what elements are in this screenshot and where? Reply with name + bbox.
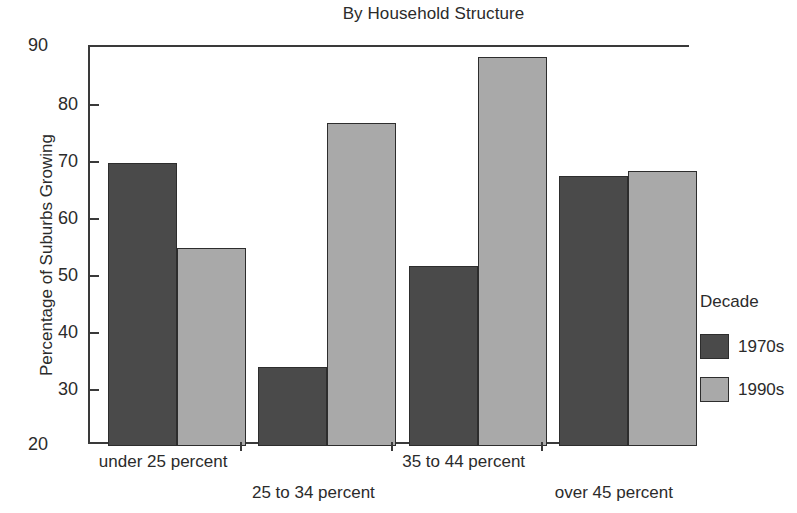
y-tick-label: 80 bbox=[58, 94, 78, 115]
bar-2-1990s bbox=[327, 123, 396, 446]
x-tick-3 bbox=[541, 442, 543, 451]
y-tick-label: 40 bbox=[58, 322, 78, 343]
y-tick-label: 70 bbox=[58, 151, 78, 172]
x-tick-1 bbox=[240, 442, 242, 451]
x-axis-label-2: 25 to 34 percent bbox=[252, 483, 375, 503]
x-tick-2 bbox=[391, 442, 393, 451]
bar-4-1990s bbox=[628, 171, 697, 446]
y-axis-title: Percentage of Suburbs Growing bbox=[37, 90, 57, 420]
y-tick-label: 30 bbox=[58, 379, 78, 400]
bar-3-1970s bbox=[409, 266, 478, 446]
y-tick-label: 90 bbox=[28, 35, 48, 56]
legend-items: 1970s1990s bbox=[700, 334, 795, 402]
plot-area: 2030405060708090 bbox=[88, 45, 689, 444]
bar-1-1970s bbox=[108, 163, 177, 446]
y-tick-label: 60 bbox=[58, 208, 78, 229]
legend-swatch-1990s bbox=[700, 377, 729, 402]
x-axis-label-1: under 25 percent bbox=[99, 452, 228, 472]
legend-item-1990s[interactable]: 1990s bbox=[700, 377, 795, 402]
bar-4-1970s bbox=[559, 176, 628, 446]
legend-label-1970s: 1970s bbox=[738, 337, 784, 357]
chart-title: By Household Structure bbox=[0, 4, 797, 24]
legend: Decade 1970s1990s bbox=[700, 292, 795, 420]
bar-series-group bbox=[90, 47, 689, 442]
legend-swatch-1970s bbox=[700, 334, 729, 359]
legend-item-1970s[interactable]: 1970s bbox=[700, 334, 795, 359]
legend-title: Decade bbox=[700, 292, 795, 312]
y-tick-label: 50 bbox=[58, 265, 78, 286]
bar-2-1970s bbox=[258, 367, 327, 446]
bar-3-1990s bbox=[478, 57, 547, 446]
x-axis-label-4: over 45 percent bbox=[555, 483, 673, 503]
y-tick-label: 20 bbox=[28, 434, 48, 455]
legend-label-1990s: 1990s bbox=[738, 380, 784, 400]
bar-1-1990s bbox=[177, 248, 246, 446]
bar-chart: By Household Structure Percentage of Sub… bbox=[0, 0, 797, 513]
x-axis-label-3: 35 to 44 percent bbox=[402, 452, 525, 472]
